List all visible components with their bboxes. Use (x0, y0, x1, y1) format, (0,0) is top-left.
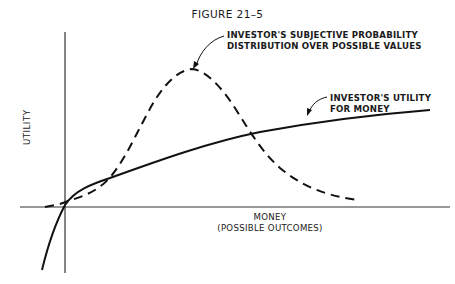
distribution-annotation-line1: INVESTOR'S SUBJECTIVE PROBABILITY (227, 30, 422, 41)
distribution-annotation: INVESTOR'S SUBJECTIVE PROBABILITY DISTRI… (227, 30, 422, 52)
utility-annotation: INVESTOR'S UTILITY FOR MONEY (330, 93, 431, 115)
distribution-arrowhead-icon (193, 61, 199, 69)
distribution-annotation-line2: DISTRIBUTION OVER POSSIBLE VALUES (227, 41, 422, 52)
probability-distribution-curve (45, 69, 358, 207)
distribution-arrow (196, 36, 224, 66)
utility-arrow (309, 97, 327, 112)
utility-arrowhead-icon (307, 108, 312, 116)
x-axis-label-line2: (POSSIBLE OUTCOMES) (180, 223, 360, 234)
utility-annotation-line2: FOR MONEY (330, 104, 431, 115)
x-axis-label-line1: MONEY (180, 212, 360, 223)
x-axis-label: MONEY (POSSIBLE OUTCOMES) (180, 212, 360, 234)
utility-annotation-line1: INVESTOR'S UTILITY (330, 93, 431, 104)
utility-curve (42, 110, 430, 270)
y-axis-label: UTILITY (22, 110, 32, 145)
